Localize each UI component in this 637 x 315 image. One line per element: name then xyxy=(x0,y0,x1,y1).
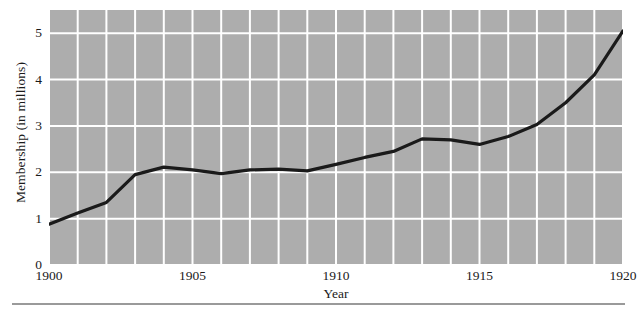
x-tick-label: 1910 xyxy=(323,268,350,284)
plot-area xyxy=(49,10,623,265)
x-tick-label: 1920 xyxy=(610,268,637,284)
chart-figure: Membership (in millions) 012345 19001905… xyxy=(0,0,637,315)
x-tick-label: 1900 xyxy=(36,268,63,284)
x-tick-label: 1905 xyxy=(179,268,206,284)
y-tick-label: 2 xyxy=(0,166,49,180)
x-axis-title: Year xyxy=(49,286,623,302)
plot-svg xyxy=(49,10,623,265)
y-tick-label: 4 xyxy=(0,73,49,87)
vertical-gridlines xyxy=(49,10,623,265)
y-tick-label: 3 xyxy=(0,119,49,133)
y-tick-label: 5 xyxy=(0,26,49,40)
footer-divider xyxy=(12,303,625,305)
x-tick-label: 1915 xyxy=(466,268,493,284)
y-tick-label: 1 xyxy=(0,212,49,226)
